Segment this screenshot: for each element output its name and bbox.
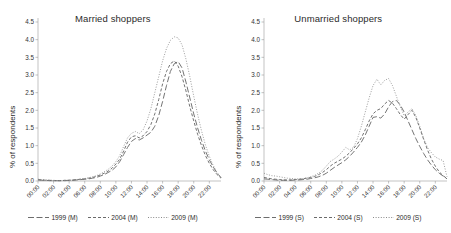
svg-text:04:00: 04:00: [282, 183, 298, 199]
svg-text:06:00: 06:00: [72, 183, 88, 199]
legend-married: 1999 (M)2004 (M)2009 (M): [0, 214, 226, 221]
svg-text:0.0: 0.0: [251, 177, 260, 184]
svg-text:06:00: 06:00: [297, 183, 313, 199]
legend-item: 2004 (S): [314, 214, 363, 221]
legend-swatch-line: [88, 215, 109, 220]
svg-text:1.0: 1.0: [251, 142, 260, 149]
svg-text:0.0: 0.0: [25, 177, 34, 184]
svg-text:02:00: 02:00: [266, 183, 282, 199]
svg-text:16:00: 16:00: [150, 183, 166, 199]
svg-text:08:00: 08:00: [313, 183, 329, 199]
legend-item: 2009 (M): [148, 214, 198, 221]
legend-unmarried: 1999 (S)2004 (S)2009 (S): [226, 214, 451, 221]
svg-text:10:00: 10:00: [328, 183, 344, 199]
svg-text:2.5: 2.5: [251, 89, 260, 96]
svg-text:22:00: 22:00: [422, 183, 438, 199]
svg-text:18:00: 18:00: [391, 183, 407, 199]
svg-text:1.0: 1.0: [25, 142, 34, 149]
legend-swatch-line: [28, 215, 49, 220]
legend-swatch-line: [314, 215, 335, 220]
legend-item: 1999 (S): [255, 214, 304, 221]
legend-label: 2009 (S): [396, 214, 421, 221]
svg-text:3.0: 3.0: [25, 71, 34, 78]
plot-area-married: 0.00.51.01.52.02.53.03.54.04.500:0002:00…: [0, 0, 226, 233]
svg-text:3.5: 3.5: [25, 54, 34, 61]
figure-two-panel-line-charts: Married shoppers % of respondents 0.00.5…: [0, 0, 451, 233]
svg-text:1.5: 1.5: [25, 124, 34, 131]
legend-label: 1999 (M): [51, 214, 77, 221]
legend-swatch-line: [148, 215, 169, 220]
svg-text:2.0: 2.0: [251, 107, 260, 114]
svg-text:1.5: 1.5: [251, 124, 260, 131]
svg-text:00:00: 00:00: [25, 183, 41, 199]
svg-text:3.5: 3.5: [251, 54, 260, 61]
svg-text:20:00: 20:00: [181, 183, 197, 199]
svg-text:14:00: 14:00: [359, 183, 375, 199]
svg-text:00:00: 00:00: [250, 183, 266, 199]
svg-text:18:00: 18:00: [165, 183, 181, 199]
legend-swatch-line: [255, 215, 276, 220]
legend-swatch-line: [373, 215, 394, 220]
svg-text:04:00: 04:00: [56, 183, 72, 199]
svg-text:0.5: 0.5: [25, 160, 34, 167]
svg-text:4.0: 4.0: [251, 36, 260, 43]
svg-text:12:00: 12:00: [344, 183, 360, 199]
legend-item: 1999 (M): [28, 214, 78, 221]
panel-married: Married shoppers % of respondents 0.00.5…: [0, 0, 226, 233]
svg-text:4.0: 4.0: [25, 36, 34, 43]
svg-text:20:00: 20:00: [406, 183, 422, 199]
panel-unmarried: Unmarried shoppers % of respondents 0.00…: [226, 0, 451, 233]
svg-text:10:00: 10:00: [103, 183, 119, 199]
svg-text:4.5: 4.5: [251, 18, 260, 25]
legend-item: 2004 (M): [88, 214, 138, 221]
svg-text:16:00: 16:00: [375, 183, 391, 199]
svg-text:4.5: 4.5: [25, 18, 34, 25]
legend-item: 2009 (S): [373, 214, 422, 221]
svg-text:22:00: 22:00: [196, 183, 212, 199]
svg-text:0.5: 0.5: [251, 160, 260, 167]
svg-text:02:00: 02:00: [41, 183, 57, 199]
svg-text:3.0: 3.0: [251, 71, 260, 78]
svg-text:2.5: 2.5: [25, 89, 34, 96]
svg-text:08:00: 08:00: [87, 183, 103, 199]
plot-area-unmarried: 0.00.51.01.52.02.53.03.54.04.500:0002:00…: [226, 0, 451, 233]
svg-text:14:00: 14:00: [134, 183, 150, 199]
legend-label: 1999 (S): [279, 214, 304, 221]
svg-text:2.0: 2.0: [25, 107, 34, 114]
legend-label: 2004 (S): [337, 214, 362, 221]
legend-label: 2004 (M): [111, 214, 137, 221]
legend-label: 2009 (M): [171, 214, 197, 221]
svg-text:12:00: 12:00: [118, 183, 134, 199]
